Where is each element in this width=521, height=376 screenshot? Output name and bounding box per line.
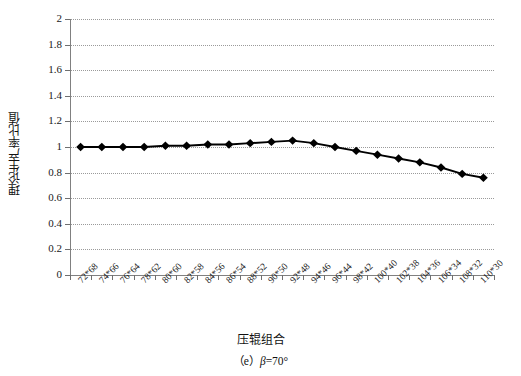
gridline-y-1.4: [70, 96, 494, 97]
y-tick-label-1.6: 1.6: [30, 64, 62, 75]
y-tick-label-1.8: 1.8: [30, 39, 62, 50]
y-tick-mark-0.2: [65, 249, 70, 250]
y-tick-mark-2: [65, 19, 70, 20]
y-tick-label-0.4: 0.4: [30, 218, 62, 229]
y-tick-mark-1.4: [65, 96, 70, 97]
y-tick-mark-0.8: [65, 173, 70, 174]
y-tick-mark-1: [65, 147, 70, 148]
caption-value: =70°: [266, 355, 289, 367]
y-tick-mark-1.2: [65, 121, 70, 122]
gridline-y-1.8: [70, 45, 494, 46]
y-axis-line: [70, 19, 71, 276]
gridline-y-0.8: [70, 173, 494, 174]
gridline-y-0.2: [70, 249, 494, 250]
x-tick-mark-0: [70, 275, 71, 280]
y-tick-label-0.2: 0.2: [30, 243, 62, 254]
y-tick-label-2: 2: [30, 13, 62, 24]
y-axis-title: 理论生产率比值: [9, 112, 25, 196]
figure-caption: （e）β=70°: [0, 352, 521, 368]
gridline-y-1.6: [70, 70, 494, 71]
y-tick-mark-1.8: [65, 45, 70, 46]
y-tick-label-1: 1: [30, 141, 62, 152]
gridline-y-0.6: [70, 198, 494, 199]
y-tick-label-0.6: 0.6: [30, 192, 62, 203]
x-axis-title: 压辊组合: [0, 330, 521, 348]
y-tick-label-1.4: 1.4: [30, 90, 62, 101]
figure-container: 00.20.40.60.811.21.41.61.82 72*6874*6676…: [0, 0, 521, 376]
y-tick-mark-0.4: [65, 224, 70, 225]
y-axis-tick-labels: 00.20.40.60.811.21.41.61.82: [30, 0, 62, 376]
y-tick-mark-1.6: [65, 70, 70, 71]
gridline-y-2: [70, 19, 494, 20]
gridline-y-0.4: [70, 224, 494, 225]
y-tick-mark-0.6: [65, 198, 70, 199]
y-tick-label-0.8: 0.8: [30, 167, 62, 178]
caption-prefix: （e）: [233, 355, 260, 367]
y-tick-label-0: 0: [30, 269, 62, 280]
gridline-y-1.2: [70, 121, 494, 122]
gridline-y-1: [70, 147, 494, 148]
y-tick-label-1.2: 1.2: [30, 115, 62, 126]
